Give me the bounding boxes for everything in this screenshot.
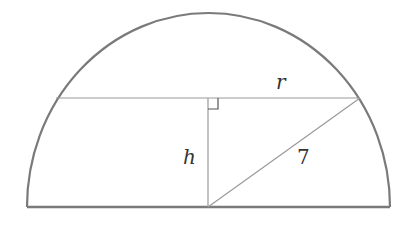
right-angle-marker (208, 98, 218, 109)
diagram-canvas (0, 0, 411, 227)
label-r: r (276, 72, 286, 92)
radius-diagonal (208, 98, 360, 207)
label-seven: 7 (297, 147, 310, 167)
label-h: h (183, 147, 196, 167)
